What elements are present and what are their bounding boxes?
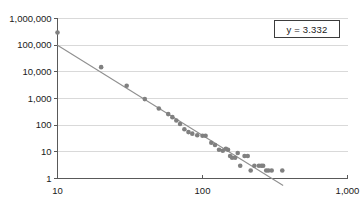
- x-tick-label: 100: [195, 186, 211, 196]
- equation-annotation-box: y = 3.332: [274, 20, 340, 38]
- y-tick-label: 10: [41, 147, 52, 157]
- equation-annotation-text: y = 3.332: [286, 24, 327, 35]
- log-log-scatter-chart: 1101001,00010,000100,0001,000,000 101001…: [0, 0, 360, 206]
- x-tick-label: 10: [52, 186, 63, 196]
- y-tick-label: 10,000: [22, 67, 51, 77]
- y-tick-label: 100: [36, 120, 52, 130]
- y-tick-label: 1,000,000: [9, 14, 51, 24]
- gridlines: [58, 19, 348, 152]
- y-tick-label: 1: [46, 174, 51, 184]
- x-tick-label: 1,000: [336, 186, 360, 196]
- trendline: [58, 45, 284, 185]
- y-tick-label: 100,000: [17, 40, 51, 50]
- y-tick-label: 1,000: [28, 94, 52, 104]
